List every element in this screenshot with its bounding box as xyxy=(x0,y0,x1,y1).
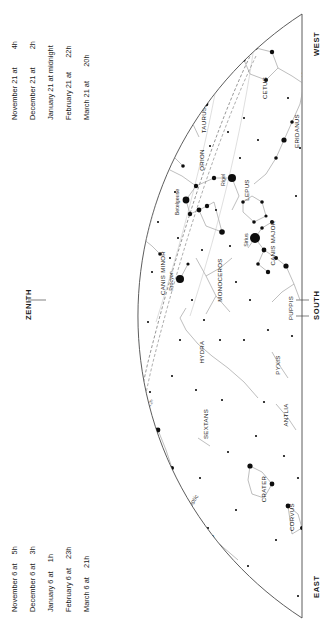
star-label: Pollux xyxy=(96,283,102,298)
constellation-label: CETUS xyxy=(261,77,268,99)
star-label: Pleiades xyxy=(140,98,146,119)
constellation-label: CANIS MINOR xyxy=(159,251,166,295)
legend-bottom-sup-2: h xyxy=(46,554,55,558)
legend-bottom-date-3: February 6 at xyxy=(64,568,73,612)
legend-top-time-4: 20 xyxy=(82,59,91,67)
legend-top-time-3: 22 xyxy=(64,50,73,58)
legend-bottom-sup-3: h xyxy=(64,547,73,551)
legend-top-date-3: February 21 at xyxy=(64,72,73,120)
legend-bottom-time-4: 21 xyxy=(82,560,91,568)
constellation-label: LEO MINOR xyxy=(100,413,107,450)
hour-circle-label: 9ʰ xyxy=(81,239,89,246)
constellation-label: PUPPIS xyxy=(287,296,294,320)
legend-bottom-date-0: November 6 at xyxy=(10,564,19,612)
legend-top-date-1: December 21 at xyxy=(28,67,37,120)
hour-circle-label: 7ʰ xyxy=(123,135,131,142)
constellation-label: GEMINI xyxy=(98,235,105,258)
hour-circle-label: 4ʰ xyxy=(193,31,201,38)
star-label: Betelgeuse xyxy=(174,189,180,216)
star-labels: CapellaAldebaranBetelgeuseRigelSiriusPro… xyxy=(53,67,307,469)
star-label: Castor xyxy=(85,275,91,291)
constellation-label: URSA MAJOR xyxy=(56,370,63,413)
legend-top-date-2: January 21 at midnight xyxy=(46,45,55,120)
constellation-label: LYNX xyxy=(64,313,71,330)
constellation-label: CANIS MAJOR xyxy=(269,220,276,265)
constellation-label: TAURUS xyxy=(200,107,207,133)
direction-south: SOUTH xyxy=(312,290,321,320)
constellation-label: ANTLIA xyxy=(282,403,289,427)
constellation-label: PERSEUS xyxy=(125,106,132,137)
legend-bottom-date-1: December 6 at xyxy=(28,564,37,612)
hour-circle-label: 6ʰ xyxy=(147,91,155,98)
constellation-label: MONOCEROS xyxy=(216,258,223,301)
legend-bottom-sup-4: h xyxy=(82,556,91,560)
direction-west: WEST xyxy=(312,32,321,56)
ecliptic-line xyxy=(114,52,256,570)
legend-top-sup-0: h xyxy=(10,41,19,45)
constellation-label: ORION xyxy=(198,149,205,170)
legend-top-date-0: November 21 at xyxy=(10,67,19,120)
legend-bottom-time-0: 5 xyxy=(10,550,19,554)
cardinal-ticks xyxy=(296,300,309,316)
constellation-label: CANCER xyxy=(112,341,119,369)
legend-bottom-date-2: January 6 at xyxy=(46,571,55,612)
star-label: Procyon xyxy=(168,271,174,290)
hour-circle-label: 13ʰ xyxy=(160,456,169,466)
star-label: Capella xyxy=(53,161,59,179)
star-label: Aldebaran xyxy=(153,132,159,156)
star-label: Mira xyxy=(301,67,307,77)
legend-top-sup-3: h xyxy=(64,45,73,49)
legend-bottom-time-1: 3 xyxy=(28,550,37,554)
star-label: Sirius xyxy=(243,233,249,247)
hour-circle-label: 5ʰ xyxy=(171,55,179,62)
legend-bottom-time-3: 23 xyxy=(64,551,73,559)
legend-bottom-date-4: March 6 at xyxy=(82,577,91,612)
legend-bottom-sup-1: h xyxy=(28,546,37,550)
constellation-label: SEXTANS xyxy=(202,409,209,439)
direction-zenith: ZENITH xyxy=(24,289,33,320)
legend-top-date-4: March 21 at xyxy=(82,81,91,120)
constellation-label: AURIGA xyxy=(76,176,83,202)
legend-top-sup-1: h xyxy=(28,41,37,45)
legend-bottom-time-2: 1 xyxy=(46,558,55,562)
constellation-label: PYXIS xyxy=(274,355,281,374)
constellation-label: HYDRA xyxy=(198,340,205,363)
legend-bottom-dates: November 6 at 5h December 6 at 3h Januar… xyxy=(6,488,126,628)
constellation-label: CRATER xyxy=(260,476,267,503)
legend-top-sup-4: h xyxy=(82,54,91,58)
hour-circle-label: 8ʰ xyxy=(99,191,107,198)
legend-top-time-0: 4 xyxy=(10,45,19,49)
horizon-boundary xyxy=(138,14,302,618)
constellation-label: LEO xyxy=(131,427,138,440)
hour-circle-label: 10ʰ xyxy=(114,294,123,304)
constellation-label: ERIDANUS xyxy=(293,114,300,148)
legend-bottom-sup-0: h xyxy=(10,546,19,550)
legend-top-time-1: 2 xyxy=(28,45,37,49)
star-label: Regulus xyxy=(131,449,137,469)
star-label: Rigel xyxy=(220,174,226,186)
constellation-label: COMA BERENICES xyxy=(155,500,162,559)
constellation-label: CORVUS xyxy=(288,503,295,531)
direction-east: EAST xyxy=(312,575,321,598)
legend-top-dates: November 21 at 4h December 21 at 2h Janu… xyxy=(6,8,126,126)
constellation-label: LEPUS xyxy=(243,179,250,200)
